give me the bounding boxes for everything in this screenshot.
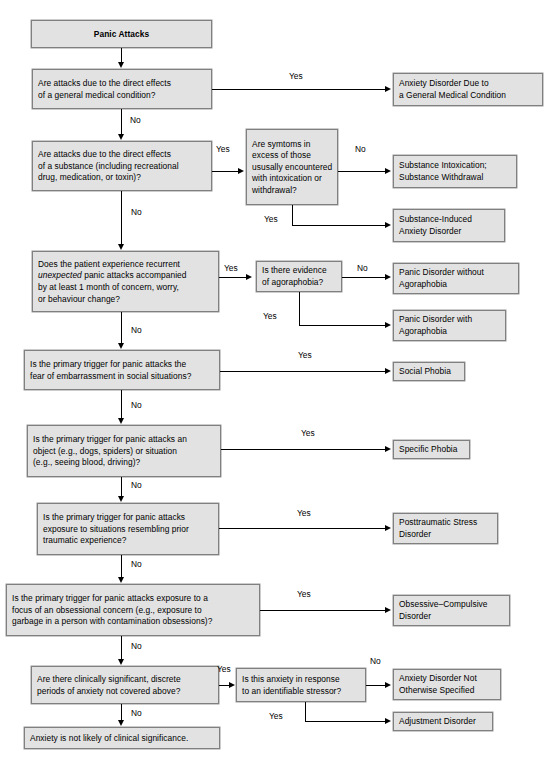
node-line: Substance Intoxication; [399, 160, 511, 172]
node-line: with intoxication or [252, 173, 332, 185]
arrowhead-down [118, 343, 124, 349]
node-line: Is the primary trigger for panic attacks… [33, 434, 215, 446]
connector-agoraphobia-no [342, 277, 386, 278]
node-question-object-or-situation-trigger[interactable]: Is the primary trigger for panic attacks… [27, 425, 221, 477]
node-line: Is there evidence [262, 265, 336, 277]
connector-excess-yes-vertical [292, 205, 293, 226]
edge-label-excess-no: No [355, 144, 366, 154]
node-question-identifiable-stressor[interactable]: Is this anxiety in response to an identi… [236, 668, 366, 702]
node-outcome-specific-phobia[interactable]: Specific Phobia [393, 440, 470, 459]
node-line: Are there clinically significant, discre… [37, 674, 213, 686]
connector-specific-no [121, 477, 122, 497]
edge-label-specific-no: No [131, 480, 142, 490]
node-question-general-medical-condition[interactable]: Are attacks due to the direct effects of… [32, 69, 212, 109]
arrowhead-right [385, 525, 391, 531]
node-line: Substance-Induced [399, 214, 499, 226]
edge-label-specific-yes: Yes [301, 428, 315, 438]
node-outcome-panic-disorder-without-agoraphobia[interactable]: Panic Disorder without Agoraphobia [393, 263, 519, 294]
node-question-substance-effects[interactable]: Are attacks due to the direct effects of… [32, 141, 212, 191]
edge-label-substance-yes: Yes [216, 144, 230, 154]
edge-label-ptsd-no: No [131, 559, 142, 569]
node-outcome-anxiety-disorder-nos[interactable]: Anxiety Disorder Not Otherwise Specified [393, 669, 501, 700]
node-outcome-obsessive-compulsive-disorder[interactable]: Obsessive–Compulsive Disorder [393, 595, 510, 626]
edge-label-unexpected-yes: Yes [224, 263, 238, 273]
node-line: fear of embarrassment in social situatio… [30, 371, 214, 383]
node-line: focus of an obsessional concern (e.g., e… [12, 605, 254, 617]
node-line: or behaviour change? [38, 294, 213, 306]
arrowhead-right [229, 682, 235, 688]
arrowhead-right [385, 168, 391, 174]
connector-unexpected-no [121, 312, 122, 344]
edge-label-social-no: No [131, 400, 142, 410]
arrowhead-right [385, 86, 391, 92]
node-panic-attacks[interactable]: Panic Attacks [31, 20, 212, 48]
edge-label-agoraphobia-yes: Yes [263, 311, 277, 321]
node-line: Adjustment Disorder [399, 716, 487, 728]
node-outcome-social-phobia[interactable]: Social Phobia [393, 362, 465, 381]
arrowhead-down [118, 418, 124, 424]
node-outcome-anxiety-disorder-gmc[interactable]: Anxiety Disorder Due to a General Medica… [393, 73, 543, 106]
arrowhead-right [385, 607, 391, 613]
edge-label-gmc-no: No [130, 115, 141, 125]
node-line: Is the primary trigger for panic attacks… [12, 593, 254, 605]
node-outcome-adjustment-disorder[interactable]: Adjustment Disorder [393, 712, 493, 731]
edge-label-social-yes: Yes [298, 350, 312, 360]
node-line: to an identifiable stressor? [242, 686, 360, 698]
arrowhead-down [118, 720, 124, 726]
edge-label-stressor-no: No [370, 656, 381, 666]
node-line: Disorder [399, 529, 492, 541]
node-question-obsessional-concern[interactable]: Is the primary trigger for panic attacks… [6, 584, 260, 636]
node-line: Specific Phobia [399, 444, 464, 456]
node-outcome-panic-disorder-with-agoraphobia[interactable]: Panic Disorder with Agoraphobia [393, 310, 506, 341]
node-question-symptoms-in-excess[interactable]: Are symtoms in excess of those ususally … [246, 129, 338, 205]
connector-stressor-yes-horizontal [305, 721, 386, 722]
node-outcome-posttraumatic-stress-disorder[interactable]: Posttraumatic Stress Disorder [393, 513, 498, 544]
node-line: of a substance (including recreational [38, 161, 206, 173]
node-line: Otherwise Specified [399, 685, 495, 697]
node-line: Panic Attacks [94, 29, 149, 41]
node-question-recurrent-unexpected-attacks[interactable]: Does the patient experience recurrent un… [32, 251, 219, 312]
node-outcome-substance-induced-anxiety-disorder[interactable]: Substance-Induced Anxiety Disorder [393, 209, 505, 242]
connector-ocd-yes [260, 610, 386, 611]
node-outcome-no-clinical-significance[interactable]: Anxiety is not likely of clinical signif… [24, 727, 220, 749]
node-line: ususally encountered [252, 162, 332, 174]
connector-agoraphobia-yes-horizontal [299, 325, 386, 326]
node-line: Agoraphobia [399, 279, 513, 291]
node-line: Anxiety Disorder Due to [399, 78, 537, 90]
edge-label-excess-yes: Yes [264, 214, 278, 224]
connector-stressor-no [366, 685, 386, 686]
arrowhead-down [118, 496, 124, 502]
node-question-prior-traumatic-experience[interactable]: Is the primary trigger for panic attacks… [37, 503, 219, 555]
node-line: Are attacks due to the direct effects [38, 78, 206, 90]
node-outcome-substance-intoxication-withdrawal[interactable]: Substance Intoxication; Substance Withdr… [393, 155, 517, 188]
node-question-discrete-periods-of-anxiety[interactable]: Are there clinically significant, discre… [31, 666, 219, 704]
node-line: periods of anxiety not covered above? [37, 686, 213, 698]
connector-gmc-no [121, 109, 122, 135]
edge-label-discrete-yes: Yes [217, 664, 231, 674]
edge-label-substance-no: No [131, 207, 142, 217]
connector-start-to-gmc [121, 48, 122, 63]
node-line: Is this anxiety in response [242, 674, 360, 686]
node-question-evidence-of-agoraphobia[interactable]: Is there evidence of agoraphobia? [256, 261, 342, 292]
node-line: (e.g., seeing blood, driving)? [33, 457, 215, 469]
node-line: object (e.g., dogs, spiders) or situatio… [33, 446, 215, 458]
edge-label-discrete-no: No [131, 708, 142, 718]
node-line: Disorder [399, 611, 504, 623]
node-line-rest: panic attacks accompanied [82, 270, 187, 280]
node-line: withdrawal? [252, 185, 332, 197]
node-question-fear-of-embarrassment[interactable]: Is the primary trigger for panic attacks… [24, 350, 220, 390]
node-line: Is the primary trigger for panic attacks [43, 512, 213, 524]
node-line: Is the primary trigger for panic attacks… [30, 359, 214, 371]
arrowhead-down [118, 659, 124, 665]
connector-substance-yes [212, 171, 239, 172]
connector-ptsd-yes [219, 528, 386, 529]
node-line: Are symtoms in [252, 139, 332, 151]
arrowhead-right [385, 682, 391, 688]
connector-gmc-yes [212, 89, 386, 90]
arrowhead-right [385, 718, 391, 724]
node-line: exposure to situations resembling prior [43, 524, 213, 536]
node-line: Panic Disorder without [399, 267, 513, 279]
edge-label-gmc-yes: Yes [289, 71, 303, 81]
arrowhead-right [238, 168, 244, 174]
node-line: excess of those [252, 150, 332, 162]
